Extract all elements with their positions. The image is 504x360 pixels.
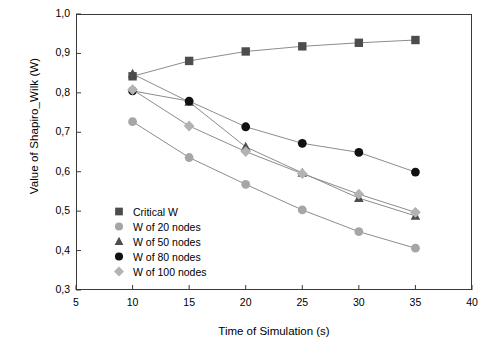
legend-item: W of 20 nodes	[108, 219, 244, 234]
y-tick-label: 0,5	[36, 204, 70, 216]
x-tick-label: 20	[231, 296, 261, 308]
x-tick-label: 35	[400, 296, 430, 308]
legend-label: W of 20 nodes	[130, 221, 201, 233]
y-tick-label: 0,9	[36, 46, 70, 58]
y-tick-label: 1,0	[36, 7, 70, 19]
legend-marker-icon	[108, 219, 130, 234]
legend-label: W of 80 nodes	[130, 251, 201, 263]
y-tick-label: 0,3	[36, 283, 70, 295]
chart-container: Value of Shapiro_Wilk (W) Time of Simula…	[0, 0, 504, 360]
legend-marker-icon	[108, 264, 130, 279]
y-tick-label: 0,4	[36, 244, 70, 256]
x-axis-label: Time of Simulation (s)	[76, 325, 472, 337]
legend-marker-icon	[108, 249, 130, 264]
legend-item: W of 100 nodes	[108, 264, 244, 279]
x-tick-label: 25	[287, 296, 317, 308]
x-tick-label: 5	[61, 296, 91, 308]
legend-label: W of 100 nodes	[130, 266, 207, 278]
legend-item: Critical W	[108, 204, 244, 219]
chart-legend: Critical WW of 20 nodesW of 50 nodesW of…	[108, 204, 244, 279]
legend-marker-icon	[108, 234, 130, 249]
legend-label: W of 50 nodes	[130, 236, 201, 248]
legend-label: Critical W	[130, 206, 178, 218]
legend-item: W of 80 nodes	[108, 249, 244, 264]
x-tick-label: 40	[457, 296, 487, 308]
y-tick-label: 0,6	[36, 165, 70, 177]
y-tick-label: 0,8	[36, 86, 70, 98]
x-tick-label: 30	[344, 296, 374, 308]
x-tick-label: 15	[174, 296, 204, 308]
x-tick-label: 10	[118, 296, 148, 308]
series-4	[127, 84, 421, 217]
y-tick-label: 0,7	[36, 125, 70, 137]
legend-marker-icon	[108, 204, 130, 219]
legend-item: W of 50 nodes	[108, 234, 244, 249]
series-0	[128, 36, 419, 81]
